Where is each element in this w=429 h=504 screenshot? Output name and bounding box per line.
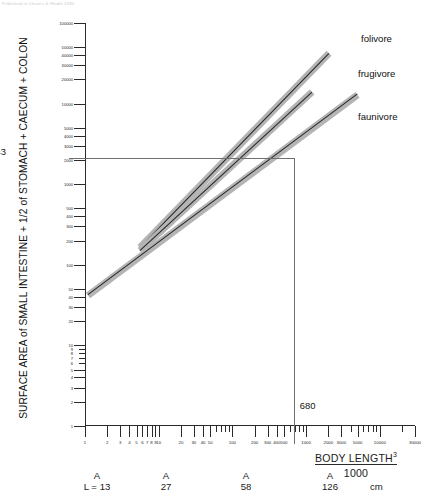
x-tick (376, 426, 377, 432)
y-tick-label: 20000 (62, 77, 73, 82)
y-tick-label: 5 (71, 367, 73, 372)
x-tick (159, 426, 160, 437)
y-tick (74, 388, 85, 389)
x-tick-label: 3000 (337, 440, 347, 445)
length-marker-3: A 58 (241, 470, 252, 492)
y-tick-label: 500 (66, 206, 73, 211)
x-tick (85, 426, 86, 437)
y-tick (74, 265, 85, 266)
plot-area: 1234567891020304050100200300400500100020… (85, 23, 415, 426)
length-marker-4: A 126 (322, 470, 338, 492)
x-tick (142, 426, 143, 437)
publication-header: Published in Chivers & Hladik 1980 (2, 1, 74, 6)
y-tick-label: 7 (71, 355, 73, 360)
length-marker-1: A L = 13 (84, 470, 111, 492)
length-marker-value: 126 (322, 481, 338, 492)
x-tick-label: 7 (146, 440, 148, 445)
length-unit: cm (370, 481, 383, 492)
x-tick-label: 3 (119, 440, 121, 445)
y-tick-label: 4 (71, 375, 73, 380)
reference-line-horizontal (69, 158, 294, 159)
length-marker-value: L = 13 (84, 481, 111, 492)
x-tick (303, 426, 304, 432)
y-tick-label: 6 (71, 361, 73, 366)
length-marker-glyph: A (161, 470, 172, 481)
x-tick-label: 2 (106, 440, 108, 445)
y-tick (79, 358, 85, 359)
y-tick (79, 363, 85, 364)
y-tick-label: 100 (66, 262, 73, 267)
y-tick (74, 128, 85, 129)
y-tick (74, 345, 85, 346)
regression-line-frugivore (139, 91, 312, 251)
x-tick (255, 426, 256, 437)
x-tick (299, 426, 300, 432)
y-tick (74, 226, 85, 227)
legend-label-folivore: folivore (361, 33, 392, 44)
x-tick (232, 426, 233, 437)
y-tick (74, 136, 85, 137)
y-tick (74, 146, 85, 147)
y-tick-label: 50 (68, 287, 73, 292)
x-tick (203, 426, 204, 437)
y-tick-label: 1 (71, 424, 73, 429)
regression-line-faunivore (88, 94, 358, 296)
y-tick (79, 353, 85, 354)
x-tick (351, 426, 352, 432)
length-marker-glyph: A (241, 470, 252, 481)
y-tick (74, 297, 85, 298)
x-tick-label: 100 (229, 440, 236, 445)
x-tick (284, 426, 285, 437)
y-tick (74, 402, 85, 403)
reference-label-x: 680 (300, 400, 316, 411)
y-tick-label: 4000 (64, 133, 73, 138)
legend-label-faunivore: faunivore (358, 111, 397, 122)
length-marker-glyph: A (322, 470, 338, 481)
x-axis-title-numerator: BODY LENGTH3 (315, 451, 397, 465)
y-tick-label: 10000 (62, 101, 73, 106)
reference-label-y: 2143 (0, 146, 6, 157)
y-tick-label: 20 (68, 319, 73, 324)
y-tick (74, 23, 85, 24)
x-tick (306, 426, 307, 437)
x-tick-label: 6 (141, 440, 143, 445)
x-axis-line (85, 425, 415, 426)
length-marker-value: 27 (161, 481, 172, 492)
x-tick-label: 8 (150, 440, 152, 445)
x-tick-label: 40 (201, 440, 206, 445)
x-tick (152, 426, 153, 437)
y-tick (74, 289, 85, 290)
y-tick (74, 104, 85, 105)
x-tick-label: 200 (251, 440, 258, 445)
x-tick (373, 426, 374, 432)
x-tick-label: 300 (264, 440, 271, 445)
reference-line-vertical (294, 158, 295, 444)
x-tick (290, 426, 291, 432)
y-axis-title: SURFACE AREA of SMALL INTESTINE + 1/2 of… (14, 30, 32, 426)
x-tick (358, 426, 359, 437)
y-tick (74, 216, 85, 217)
x-tick (368, 426, 369, 432)
y-tick (74, 307, 85, 308)
y-tick (74, 79, 85, 80)
x-tick-label: 1 (84, 440, 86, 445)
y-tick-label: 200 (66, 238, 73, 243)
x-axis-exponent: 3 (393, 451, 397, 458)
y-tick-label: 50000 (62, 45, 73, 50)
y-tick (74, 65, 85, 66)
length-marker-2: A 27 (161, 470, 172, 492)
x-tick-label: 50 (208, 440, 213, 445)
x-tick (415, 426, 416, 437)
y-tick (79, 349, 85, 350)
x-tick-label: 5 (135, 440, 137, 445)
y-tick-label: 10 (68, 343, 73, 348)
x-tick (363, 426, 364, 432)
x-tick (402, 426, 403, 432)
y-axis-line (85, 23, 86, 426)
y-tick-label: 30 (68, 304, 73, 309)
y-tick (74, 377, 85, 378)
x-tick (380, 426, 381, 437)
x-tick (107, 426, 108, 437)
x-tick (216, 426, 217, 432)
legend-label-frugivore: frugivore (358, 68, 395, 79)
